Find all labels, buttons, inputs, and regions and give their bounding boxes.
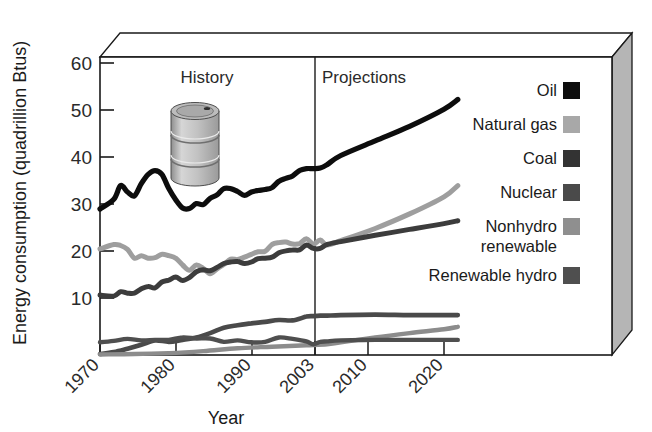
y-tick-label: 30 xyxy=(71,194,92,215)
legend-swatch-natural-gas xyxy=(563,116,580,133)
x-tick-label: 1990 xyxy=(212,355,254,397)
y-tick-label: 60 xyxy=(71,53,92,74)
legend-label-renewable-hydro: Renewable hydro xyxy=(429,266,557,284)
legend-swatch-oil xyxy=(563,82,580,99)
legend-swatch-nonhydro-renewable xyxy=(563,218,580,235)
y-tick-label: 50 xyxy=(71,100,92,121)
legend-label-nuclear: Nuclear xyxy=(500,183,557,201)
legend-swatch-nuclear xyxy=(563,184,580,201)
x-tick-label: 1980 xyxy=(136,355,178,397)
y-axis-labels: 60 50 40 30 20 10 xyxy=(71,53,92,309)
x-tick-label: 2010 xyxy=(328,355,370,397)
chart-box-top-face xyxy=(100,33,632,57)
legend-swatch-renewable-hydro xyxy=(563,267,580,284)
y-tick-label: 40 xyxy=(71,147,92,168)
y-axis-title: Energy consumption (quadrillion Btus) xyxy=(10,41,30,345)
legend-label-nonhydro-2: renewable xyxy=(481,237,557,255)
chart-box-right-face xyxy=(612,33,632,355)
legend-label-oil: Oil xyxy=(537,81,557,99)
legend-label-coal: Coal xyxy=(523,149,557,167)
x-tick-label: 2020 xyxy=(404,355,446,397)
legend-swatch-coal xyxy=(563,150,580,167)
y-tick-label: 10 xyxy=(71,288,92,309)
legend-label-nonhydro: Nonhydro xyxy=(485,217,557,235)
oil-barrel-icon xyxy=(171,103,219,187)
x-tick-label: 2003 xyxy=(275,355,317,397)
history-label: History xyxy=(181,68,234,87)
projections-label: Projections xyxy=(322,68,406,87)
chart-figure: 60 50 40 30 20 10 Energy consumption (qu… xyxy=(0,0,652,432)
legend-label-natural-gas: Natural gas xyxy=(473,115,557,133)
y-tick-label: 20 xyxy=(71,241,92,262)
energy-consumption-chart: 60 50 40 30 20 10 Energy consumption (qu… xyxy=(0,0,652,432)
chart-plot-frame xyxy=(100,57,612,355)
x-axis-labels: 1970 1980 1990 2003 2010 2020 xyxy=(60,355,446,397)
x-axis-title: Year xyxy=(208,408,244,428)
x-tick-label: 1970 xyxy=(60,355,102,397)
